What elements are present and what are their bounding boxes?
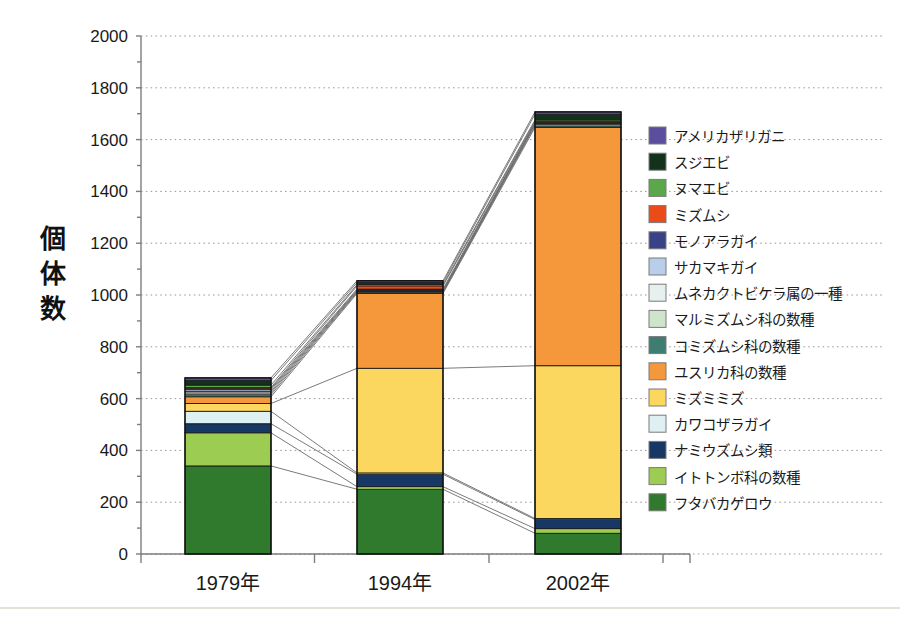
- y-tick-label: 1800: [90, 79, 128, 98]
- y-axis-title-char-2: 数: [40, 294, 67, 324]
- bar-segment: [357, 293, 443, 368]
- legend-label: ムネカクトビケラ属の一種: [674, 286, 842, 302]
- legend-swatch-icon: [649, 284, 666, 301]
- legend-item[interactable]: ミズミミズ: [649, 389, 744, 407]
- bar-segment: [185, 397, 271, 404]
- y-axis-title: 個 体 数: [39, 224, 67, 324]
- legend-label: ユスリカ科の数種: [674, 365, 786, 381]
- legend-swatch-icon: [649, 468, 666, 485]
- legend-swatch-icon: [649, 363, 666, 380]
- legend-swatch-icon: [649, 258, 666, 275]
- stacked-bar: [185, 378, 271, 554]
- legend-swatch-icon: [649, 232, 666, 249]
- bar-segment: [185, 404, 271, 412]
- legend-label: モノアラガイ: [674, 234, 758, 250]
- y-tick-label: 1400: [90, 182, 128, 201]
- stacked-bar: [357, 281, 443, 554]
- x-tick-labels: 1979年1994年2002年: [196, 572, 611, 594]
- legend-label: ミズムシ: [674, 208, 730, 224]
- legend-swatch-icon: [649, 389, 666, 406]
- bar-segment: [357, 286, 443, 289]
- x-tick-label[interactable]: 1994年: [368, 572, 433, 594]
- y-tick-label: 200: [100, 493, 128, 512]
- legend-swatch-icon: [649, 337, 666, 354]
- bar-segment: [357, 368, 443, 473]
- y-axis-title-char-1: 体: [40, 259, 67, 289]
- legend-swatch-icon: [649, 206, 666, 223]
- x-tick-label[interactable]: 2002年: [546, 572, 611, 594]
- stacked-bar-chart: 個 体 数 0200400600800100012001400160018002…: [0, 0, 900, 623]
- legend-swatch-icon: [649, 127, 666, 144]
- y-tick-label: 1000: [90, 286, 128, 305]
- legend-swatch-icon: [649, 310, 666, 327]
- bar-segment: [185, 380, 271, 385]
- legend-item[interactable]: ムネカクトビケラ属の一種: [649, 284, 842, 302]
- bar-segment: [535, 533, 621, 554]
- legend-label: ミズミミズ: [674, 391, 744, 407]
- legend-item[interactable]: ヌマエビ: [649, 179, 730, 197]
- legend-label: イトトンボ科の数種: [674, 470, 800, 486]
- y-tick-label: 0: [119, 545, 128, 564]
- legend-swatch-icon: [649, 494, 666, 511]
- legend-item[interactable]: モノアラガイ: [649, 232, 758, 250]
- y-tick-label: 600: [100, 390, 128, 409]
- y-tick-label: 2000: [90, 27, 128, 46]
- y-tick-label: 800: [100, 338, 128, 357]
- legend-swatch-icon: [649, 415, 666, 432]
- legend-label: カワコザラガイ: [674, 417, 772, 433]
- bar-segment: [185, 466, 271, 554]
- legend-label: アメリカザリガニ: [674, 129, 785, 145]
- legend-item[interactable]: ミズムシ: [649, 206, 730, 224]
- legend-label: ヌマエビ: [674, 181, 730, 197]
- y-tick-label: 1200: [90, 234, 128, 253]
- legend-swatch-icon: [649, 153, 666, 170]
- legend-label: マルミズムシ科の数種: [674, 312, 814, 328]
- y-tick-label: 400: [100, 441, 128, 460]
- legend-swatch-icon: [649, 441, 666, 458]
- stacked-bar: [535, 112, 621, 554]
- legend-swatch-icon: [649, 179, 666, 196]
- x-tick-label[interactable]: 1979年: [196, 572, 261, 594]
- bar-segment: [535, 127, 621, 365]
- legend-item[interactable]: マルミズムシ科の数種: [649, 310, 814, 328]
- bar-segment: [357, 474, 443, 486]
- legend-label: フタバカゲロウ: [674, 496, 772, 512]
- bar-segment: [185, 433, 271, 466]
- legend-item[interactable]: スジエビ: [649, 153, 730, 171]
- legend-label: ナミウズムシ類: [674, 443, 773, 459]
- legend-label: スジエビ: [674, 155, 730, 171]
- bar-segment: [535, 520, 621, 529]
- y-tick-label: 1600: [90, 131, 128, 150]
- bar-segment: [535, 366, 621, 519]
- legend-item[interactable]: サカマキガイ: [649, 258, 758, 276]
- bar-segment: [535, 529, 621, 534]
- bar-segment: [357, 489, 443, 554]
- legend-label: コミズムシ科の数種: [674, 339, 800, 355]
- bar-segment: [535, 114, 621, 120]
- legend-label: サカマキガイ: [674, 260, 758, 276]
- bar-segment: [185, 411, 271, 423]
- y-axis-title-char-0: 個: [39, 224, 66, 254]
- chart-svg: 個 体 数 0200400600800100012001400160018002…: [0, 0, 900, 623]
- bar-segment: [185, 424, 271, 433]
